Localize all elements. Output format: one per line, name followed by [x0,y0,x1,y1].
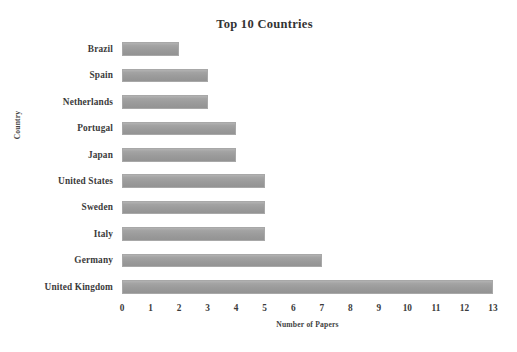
bar-chart-figure: Top 10 Countries Country BrazilSpainNeth… [0,0,517,352]
plot-area: BrazilSpainNetherlandsPortugalJapanUnite… [122,36,493,300]
x-axis-tick-label: 0 [110,303,134,313]
x-axis-tick-label: 1 [139,303,163,313]
chart-title-text: Top 10 Countries [216,17,313,31]
bar-row: United States [122,168,493,194]
bar [122,280,493,294]
bar [122,227,265,241]
bar-row: Sweden [122,194,493,220]
x-axis-tick-label: 5 [253,303,277,313]
y-axis-title: Country [13,90,25,160]
bar-category-label: Italy [94,221,113,247]
bar-row: Brazil [122,36,493,62]
x-axis-tick-label: 2 [167,303,191,313]
bar-category-label: Brazil [88,36,113,62]
bar-category-label: United States [58,168,113,194]
bar [122,95,208,109]
bar-category-label: Spain [90,62,114,88]
bar-row: Portugal [122,115,493,141]
bar-category-label: Germany [74,247,113,273]
chart-title: Top 10 Countries [0,17,517,32]
bar [122,69,208,83]
x-axis-tick-label: 7 [310,303,334,313]
bar-row: Italy [122,221,493,247]
bar-category-label: Portugal [77,115,113,141]
x-axis-tick-label: 8 [338,303,362,313]
bar [122,42,179,56]
bar [122,201,265,215]
x-axis-tick-label: 11 [424,303,448,313]
bar-category-label: United Kingdom [45,274,113,300]
bar-row: Spain [122,62,493,88]
bar-row: Japan [122,142,493,168]
x-axis-tick-label: 13 [481,303,505,313]
x-axis-tick-label: 12 [452,303,476,313]
bar [122,174,265,188]
bar-row: Germany [122,247,493,273]
x-axis-tick-label: 3 [196,303,220,313]
x-axis-title: Number of Papers [122,320,493,329]
x-axis-tick-labels: 012345678910111213 [122,303,493,319]
bar [122,148,236,162]
bar-row: Netherlands [122,89,493,115]
bar [122,254,322,268]
bar-category-label: Sweden [82,194,113,220]
bar [122,122,236,136]
bar-category-label: Japan [88,142,113,168]
bar-category-label: Netherlands [63,89,113,115]
x-axis-tick-label: 10 [395,303,419,313]
bar-row: United Kingdom [122,274,493,300]
x-axis-tick-label: 4 [224,303,248,313]
x-axis-tick-label: 9 [367,303,391,313]
x-axis-tick-label: 6 [281,303,305,313]
